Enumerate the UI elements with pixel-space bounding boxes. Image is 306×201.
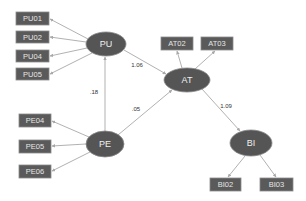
edge-pu-pu02 [50,37,86,42]
svg-text:AT03: AT03 [208,39,225,48]
path-pe-at [118,90,172,135]
edge-pu-pu01 [50,19,88,39]
svg-text:BI03: BI03 [269,180,284,189]
edge-pu-pu04 [50,48,87,56]
latent-pu: PU [86,32,126,56]
structural-paths [105,50,240,135]
svg-text:PE06: PE06 [26,167,44,176]
indicator-pe06: PE06 [19,165,51,178]
sem-diagram: 1.06 .18 .05 1.09 PU01 PU02 PU04 PU05 AT… [0,0,306,201]
svg-text:PE: PE [99,139,111,149]
latent-pe: PE [86,131,124,157]
indicator-pu05: PU05 [16,68,49,80]
indicator-bi03: BI03 [260,178,293,191]
indicator-pe05: PE05 [19,140,51,153]
svg-text:BI02: BI02 [218,180,233,189]
coefficient-labels: 1.06 .18 .05 1.09 [90,62,233,112]
svg-text:PU01: PU01 [23,14,42,23]
latent-bi: BI [230,130,272,156]
indicator-pu01: PU01 [16,12,49,25]
svg-text:PU: PU [100,39,113,49]
svg-text:AT02: AT02 [168,39,185,48]
svg-text:BI: BI [247,138,256,148]
path-at-bi [202,89,240,131]
indicator-pu04: PU04 [16,50,49,62]
coef-at-bi: 1.09 [220,103,232,109]
edge-at-at02 [177,51,182,68]
latent-constructs: PU AT PE BI [86,32,272,157]
indicator-at03: AT03 [201,37,233,50]
edge-at-at03 [195,51,215,69]
indicator-at02: AT02 [161,37,193,50]
coef-pu-at: 1.06 [131,62,143,68]
coef-pe-pu: .18 [90,89,99,95]
edge-bi-bi03 [260,155,276,177]
edge-bi-bi02 [228,156,245,177]
edge-pu-pu05 [50,53,92,74]
edge-pe-pe05 [52,144,86,146]
svg-text:AT: AT [182,75,193,85]
svg-text:PU02: PU02 [23,33,42,42]
edge-pe-pe04 [52,121,89,137]
latent-at: AT [164,68,210,92]
svg-text:PU04: PU04 [23,52,42,61]
indicator-boxes: PU01 PU02 PU04 PU05 AT02 AT03 PE04 PE05 [16,12,293,191]
indicator-pu02: PU02 [16,31,49,43]
indicator-pe04: PE04 [19,114,51,127]
coef-pe-at: .05 [132,106,141,112]
indicator-bi02: BI02 [210,178,241,191]
svg-text:PE04: PE04 [26,116,44,125]
svg-text:PU05: PU05 [23,70,42,79]
edge-pe-pe06 [52,152,90,171]
svg-text:PE05: PE05 [26,142,44,151]
